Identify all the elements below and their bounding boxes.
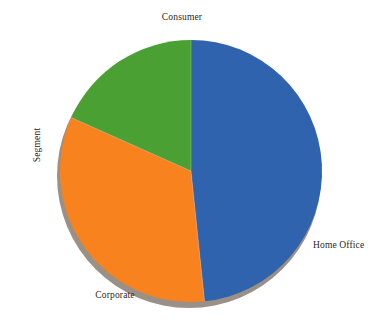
pie-chart: Segment Consumer Corporate Home Office xyxy=(0,0,392,328)
slice-label-home-office: Home Office xyxy=(313,240,364,250)
pie-graphic xyxy=(0,0,392,328)
pie-slice-consumer[interactable] xyxy=(191,40,322,301)
slice-label-corporate: Corporate xyxy=(70,290,160,300)
slice-label-consumer: Consumer xyxy=(132,12,232,22)
